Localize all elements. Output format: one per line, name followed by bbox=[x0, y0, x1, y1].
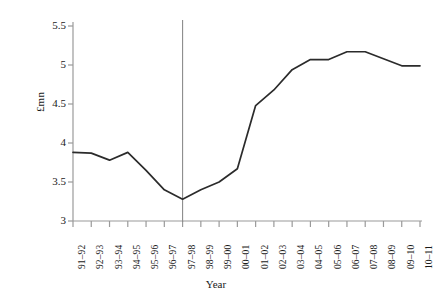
y-tick-label: 5 bbox=[36, 59, 66, 70]
x-tick-label: 08–09 bbox=[387, 245, 397, 269]
y-tick-label: 3.5 bbox=[36, 176, 66, 187]
x-tick-label: 01–02 bbox=[260, 245, 270, 269]
x-tick-label: 98–99 bbox=[205, 245, 215, 269]
x-tick-label: 99–00 bbox=[223, 245, 233, 269]
x-tick-label: 00–01 bbox=[241, 245, 251, 269]
y-tick-label: 4 bbox=[36, 137, 66, 148]
x-tick-label: 03–04 bbox=[296, 245, 306, 269]
x-tick-label: 97–98 bbox=[187, 245, 197, 269]
y-tick-label: 5.5 bbox=[36, 20, 66, 31]
x-tick-label: 93–94 bbox=[114, 245, 124, 269]
x-tick-label: 92–93 bbox=[95, 245, 105, 269]
x-axis-title: Year bbox=[0, 278, 432, 290]
x-tick-label: 94–95 bbox=[132, 245, 142, 269]
x-tick-label: 96–97 bbox=[168, 245, 178, 269]
x-tick-label: 06–07 bbox=[351, 245, 361, 269]
x-tick-label: 05–06 bbox=[333, 245, 343, 269]
x-tick-label: 09–10 bbox=[406, 245, 416, 269]
x-tick-label: 07–08 bbox=[369, 245, 379, 269]
x-tick-label: 91–92 bbox=[77, 245, 87, 269]
x-tick-label: 04–05 bbox=[314, 245, 324, 269]
x-tick-label: 10–11 bbox=[424, 245, 434, 269]
y-tick-label: 4.5 bbox=[36, 98, 66, 109]
y-tick-label: 3 bbox=[36, 215, 66, 226]
x-tick-label: 95–96 bbox=[150, 245, 160, 269]
data-series-line bbox=[73, 52, 420, 199]
x-tick-label: 02–03 bbox=[278, 245, 288, 269]
